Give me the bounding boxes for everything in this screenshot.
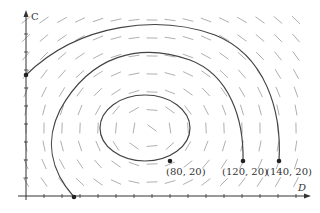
field-segment	[202, 179, 211, 186]
direction-field	[22, 16, 300, 187]
field-segment	[165, 37, 176, 39]
field-segment	[76, 70, 84, 77]
field-segment	[94, 88, 102, 96]
field-segment	[206, 123, 207, 134]
field-segment	[295, 105, 297, 116]
outer-orbit	[26, 25, 279, 161]
field-segment	[277, 105, 279, 116]
field-segment	[95, 105, 100, 115]
field-segment	[292, 34, 299, 42]
phase-plane-diagram: C D (80, 20) (120, 20) (140, 20)	[0, 0, 320, 213]
field-segment	[293, 69, 298, 79]
field-segment	[75, 18, 85, 23]
field-segment	[258, 87, 263, 97]
point-80-20	[168, 159, 173, 164]
field-segment	[274, 34, 282, 42]
field-segment	[259, 105, 262, 116]
field-segment	[98, 123, 99, 134]
point-c-axis-crossing	[24, 73, 29, 78]
field-segment	[220, 70, 228, 78]
field-segment	[240, 105, 243, 116]
field-segment	[40, 35, 48, 42]
field-segment	[221, 88, 227, 97]
field-segment	[148, 125, 157, 131]
field-segment	[277, 141, 279, 152]
field-segment	[183, 72, 193, 77]
c-axis-label: C	[31, 11, 39, 22]
field-segment	[78, 105, 82, 115]
field-segment	[202, 88, 210, 96]
field-segment	[204, 105, 209, 115]
point-120-20	[241, 159, 246, 164]
field-segment	[188, 123, 189, 134]
field-segment	[113, 141, 119, 150]
field-segment	[133, 123, 135, 134]
field-segment	[183, 19, 194, 22]
field-segment	[93, 36, 103, 40]
field-segment	[256, 34, 264, 41]
field-segment	[169, 123, 171, 134]
point-140-20	[277, 159, 282, 164]
field-segment	[274, 17, 282, 24]
field-segment	[129, 107, 139, 112]
field-segment	[94, 179, 103, 185]
field-segment	[112, 161, 121, 167]
field-segment	[129, 19, 140, 20]
field-segment	[111, 37, 122, 40]
field-segment	[220, 178, 228, 186]
c-axis-arrow-icon	[24, 10, 29, 17]
field-segment	[57, 17, 67, 22]
field-segment	[165, 19, 176, 20]
label-120-20: (120, 20)	[222, 166, 268, 177]
field-segment	[256, 52, 264, 60]
field-segment	[165, 90, 175, 94]
field-segment	[129, 73, 140, 75]
field-segment	[219, 18, 229, 23]
field-segment	[276, 87, 280, 97]
field-segment	[59, 87, 65, 96]
field-segment	[111, 72, 121, 76]
field-segment	[202, 71, 211, 77]
field-segment	[129, 162, 139, 166]
field-segment	[129, 181, 140, 183]
field-segment	[93, 71, 102, 77]
field-segment	[111, 89, 120, 95]
field-segment	[293, 52, 299, 61]
field-segment	[129, 37, 140, 38]
field-segment	[166, 107, 175, 113]
field-segment	[77, 160, 83, 169]
field-segment	[201, 36, 211, 40]
field-segment	[113, 106, 120, 114]
field-segment	[43, 141, 45, 152]
field-segment	[237, 17, 246, 23]
field-segment	[40, 52, 48, 60]
field-segment	[295, 141, 297, 152]
field-segment	[111, 19, 122, 21]
field-segment	[58, 52, 66, 59]
field-segment	[292, 16, 300, 24]
field-segment	[222, 141, 225, 152]
field-segment	[111, 180, 121, 185]
field-segment	[204, 141, 208, 151]
field-segment	[183, 180, 193, 185]
field-segment	[222, 105, 226, 115]
field-segment	[94, 160, 101, 168]
field-segment	[40, 17, 49, 23]
field-segment	[259, 141, 261, 152]
field-segment	[76, 178, 84, 186]
field-segment	[93, 18, 103, 22]
field-segment	[129, 90, 140, 93]
field-segment	[96, 141, 100, 151]
field-segment	[183, 36, 194, 39]
field-segment	[41, 70, 48, 79]
field-segment	[183, 54, 193, 58]
field-segment	[58, 70, 65, 78]
d-axis-label: D	[297, 182, 306, 193]
label-140-20: (140, 20)	[266, 166, 312, 177]
field-segment	[129, 55, 140, 57]
inner-orbit	[100, 95, 190, 161]
field-segment	[43, 105, 46, 116]
field-segment	[59, 159, 64, 169]
field-segment	[239, 178, 246, 187]
field-segment	[275, 69, 281, 78]
